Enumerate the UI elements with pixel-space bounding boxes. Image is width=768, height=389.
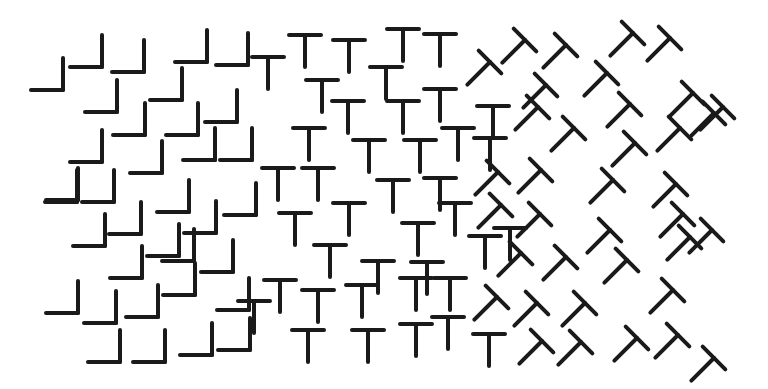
l-shape: [112, 40, 144, 72]
t-upright-shape: [289, 35, 321, 67]
t-tilted-shape: [478, 194, 512, 228]
t-tilted-shape: [551, 117, 585, 151]
t-upright-shape: [306, 80, 338, 112]
l-shape: [46, 168, 78, 200]
l-shape: [205, 90, 237, 122]
l-shape: [70, 35, 102, 67]
l-shape: [46, 281, 78, 313]
l-shape: [224, 183, 256, 215]
t-upright-shape: [424, 89, 456, 121]
l-shape: [82, 170, 114, 202]
t-tilted-shape: [650, 279, 684, 313]
t-upright-shape: [377, 180, 409, 212]
t-tilted-shape: [514, 292, 548, 326]
t-tilted-shape: [610, 22, 644, 56]
t-tilted-shape: [655, 324, 689, 358]
l-shape: [157, 180, 189, 212]
t-tilted-shape: [691, 347, 725, 381]
texture-stimulus: Texture segregation stimulus: L shapes, …: [0, 0, 768, 389]
l-shape: [150, 68, 182, 100]
t-tilted-shape: [660, 203, 694, 237]
t-tilted-shape: [607, 93, 641, 127]
t-tilted-shape: [467, 51, 501, 85]
t-upright-shape: [333, 40, 365, 72]
t-tilted-shape: [584, 62, 618, 96]
t-tilted-shape: [523, 74, 557, 108]
l-shape: [130, 141, 162, 173]
l-shape: [126, 285, 158, 317]
t-tilted-shape: [558, 331, 592, 365]
l-shape: [84, 291, 116, 323]
l-shape: [109, 202, 141, 234]
t-upright-shape: [264, 280, 296, 312]
t-tilted-shape: [515, 96, 549, 130]
stimulus-canvas: [0, 0, 768, 389]
t-tilted-shape: [700, 96, 734, 130]
t-tilted-shape: [612, 132, 646, 166]
t-tilted-shape: [590, 169, 624, 203]
t-upright-shape: [387, 29, 419, 61]
t-upright-shape: [352, 330, 384, 362]
t-tilted-shape: [475, 161, 509, 195]
t-tilted-shape: [543, 246, 577, 280]
t-tilted-shape: [474, 286, 508, 320]
t-tilted-shape: [518, 159, 552, 193]
l-shape: [73, 214, 105, 246]
t-upright-shape: [302, 168, 334, 200]
l-shape: [110, 246, 142, 278]
t-upright-shape: [477, 106, 509, 138]
t-upright-shape: [262, 168, 294, 200]
t-upright-shape: [293, 128, 325, 160]
t-tilted-shape: [647, 27, 681, 61]
l-shape: [163, 263, 195, 295]
t-tilted-shape: [498, 242, 532, 276]
t-upright-shape: [362, 261, 394, 293]
t-upright-shape: [469, 236, 501, 268]
t-tilted-shape: [543, 34, 577, 68]
l-shape: [216, 33, 248, 65]
l-shape: [220, 128, 252, 160]
l-shape: [45, 170, 77, 202]
l-shape: [201, 240, 233, 272]
t-upright-shape: [353, 140, 385, 172]
t-tilted-shape: [667, 226, 701, 260]
t-upright-shape: [292, 330, 324, 362]
t-tilted-shape: [517, 203, 551, 237]
l-shape: [147, 224, 179, 256]
t-upright-shape: [302, 290, 334, 322]
l-shape: [70, 130, 102, 162]
t-upright-shape: [402, 223, 434, 255]
t-upright-shape: [432, 317, 464, 349]
l-shape: [218, 318, 250, 350]
t-upright-shape: [473, 334, 505, 366]
l-shape: [180, 323, 212, 355]
t-upright-shape: [238, 301, 270, 333]
l-shape: [85, 80, 117, 112]
t-upright-shape: [434, 278, 466, 310]
l-shape: [166, 103, 198, 135]
t-upright-shape: [424, 178, 456, 210]
t-upright-shape: [387, 101, 419, 133]
t-tilted-shape: [614, 327, 648, 361]
t-upright-shape: [279, 213, 311, 245]
t-tilted-shape: [562, 292, 596, 326]
l-shape: [133, 330, 165, 362]
t-upright-shape: [442, 128, 474, 160]
t-upright-shape: [314, 245, 346, 277]
t-upright-shape: [424, 34, 456, 66]
l-shape: [88, 330, 120, 362]
t-tilted-shape: [604, 249, 638, 283]
t-upright-shape: [439, 203, 471, 235]
t-upright-shape: [404, 140, 436, 172]
t-upright-shape: [370, 67, 402, 99]
l-shape: [217, 278, 249, 310]
l-shape: [31, 58, 63, 90]
t-upright-shape: [333, 203, 365, 235]
t-tilted-shape: [670, 82, 704, 116]
t-tilted-shape: [519, 330, 553, 364]
t-upright-shape: [252, 57, 284, 89]
t-upright-shape: [346, 285, 378, 317]
t-upright-shape: [400, 324, 432, 356]
t-upright-shape: [332, 101, 364, 133]
t-tilted-shape: [502, 29, 536, 63]
